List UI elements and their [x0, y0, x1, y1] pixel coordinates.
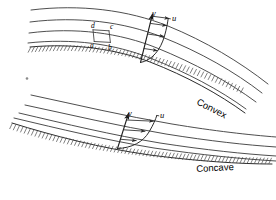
- label-concave: Concave: [196, 161, 234, 174]
- scan-speck: [26, 77, 29, 80]
- figure-canvas: y u d c a b Convex y u Concave: [0, 0, 276, 200]
- label-element-b: b: [108, 43, 112, 52]
- label-u-concave: u: [160, 110, 164, 120]
- label-element-d: d: [91, 21, 95, 30]
- label-element-c: c: [110, 22, 113, 31]
- figure-svg: [0, 0, 276, 200]
- convex-y-axis: [141, 14, 153, 63]
- element-edge-bc: [109, 31, 110, 43]
- label-y-convex: y: [152, 8, 156, 18]
- fluid-element-abcd: [93, 30, 110, 43]
- panel-convex: [28, 8, 268, 113]
- velocity-arrow: [144, 49, 157, 51]
- element-edge-dc: [93, 30, 109, 31]
- label-y-concave: y: [128, 108, 132, 118]
- label-element-a: a: [90, 41, 94, 50]
- label-u-convex: u: [172, 13, 176, 23]
- velocity-arrow: [121, 139, 136, 140]
- element-edge-ad: [93, 30, 94, 42]
- streamline: [25, 105, 276, 147]
- panel-concave: [10, 95, 276, 164]
